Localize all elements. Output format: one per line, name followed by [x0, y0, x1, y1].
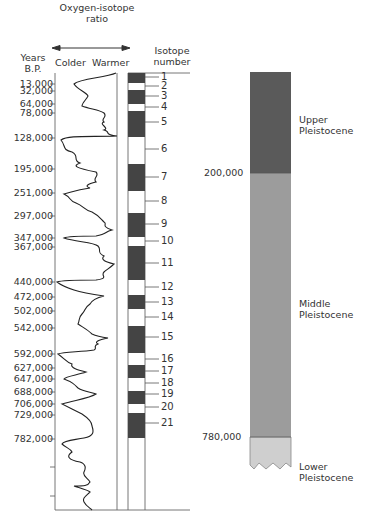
- isotope-number: 8: [161, 196, 167, 206]
- chart-graphics: [0, 0, 371, 522]
- boundary-200k-label: 200,000: [204, 167, 243, 178]
- boundary-780k-label: 780,000: [202, 431, 241, 442]
- year-label: 251,000: [14, 188, 53, 198]
- middle-line1: Middle: [299, 298, 353, 309]
- isotope-number: 17: [161, 366, 174, 376]
- isotope-leaders: [145, 77, 159, 423]
- isotope-number: 3: [161, 91, 167, 101]
- isotope-number: 15: [161, 332, 174, 342]
- isotope-number: 6: [161, 144, 167, 154]
- isotope-number: 13: [161, 297, 174, 307]
- middle-line2: Pleistocene: [299, 309, 353, 320]
- year-label: 195,000: [14, 164, 53, 174]
- lower-pleistocene-label: Lower Pleistocene: [299, 461, 353, 483]
- year-label: 297,000: [14, 211, 53, 221]
- isotope-number: 11: [161, 258, 174, 268]
- upper-pleistocene-block: [250, 72, 291, 173]
- year-label: 729,000: [14, 410, 53, 420]
- isotope-number: 18: [161, 378, 174, 388]
- year-label: 688,000: [14, 387, 53, 397]
- lower-line1: Lower: [299, 461, 353, 472]
- isotope-number: 12: [161, 282, 174, 292]
- year-label: 627,000: [14, 363, 53, 373]
- double-arrow-icon: [52, 46, 130, 51]
- year-label: 440,000: [14, 277, 53, 287]
- isotope-number: 7: [161, 172, 167, 182]
- isotope-number: 16: [161, 354, 174, 364]
- year-label: 592,000: [14, 349, 53, 359]
- year-label: 367,000: [14, 242, 53, 252]
- middle-pleistocene-block: [250, 173, 291, 437]
- isotope-number: 21: [161, 418, 174, 428]
- oxygen-isotope-curve: [57, 73, 117, 510]
- lower-pleistocene-block: [250, 437, 291, 469]
- isotope-number: 20: [161, 402, 174, 412]
- isotope-number: 14: [161, 312, 174, 322]
- isotope-stripes: [128, 73, 145, 438]
- year-label: 782,000: [14, 434, 53, 444]
- epoch-bar: [250, 72, 291, 469]
- year-label: 78,000: [20, 108, 53, 118]
- year-label: 472,000: [14, 292, 53, 302]
- upper-line2: Pleistocene: [299, 125, 353, 136]
- year-label: 32,000: [20, 86, 53, 96]
- year-label: 502,000: [14, 306, 53, 316]
- lower-line2: Pleistocene: [299, 472, 353, 483]
- middle-pleistocene-label: Middle Pleistocene: [299, 298, 353, 320]
- year-label: 706,000: [14, 399, 53, 409]
- upper-line1: Upper: [299, 114, 353, 125]
- isotope-number: 4: [161, 102, 167, 112]
- upper-pleistocene-label: Upper Pleistocene: [299, 114, 353, 136]
- year-label: 542,000: [14, 323, 53, 333]
- isotope-number: 19: [161, 389, 174, 399]
- year-label: 128,000: [14, 133, 53, 143]
- isotope-number: 10: [161, 236, 174, 246]
- isotope-number: 5: [161, 117, 167, 127]
- isotope-number: 9: [161, 219, 167, 229]
- year-label: 647,000: [14, 374, 53, 384]
